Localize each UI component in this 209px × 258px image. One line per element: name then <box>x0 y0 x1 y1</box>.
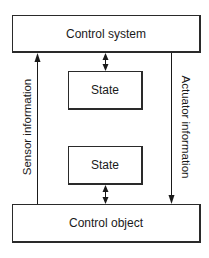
actuator-information-label: Actuator information <box>180 67 192 187</box>
double-arrow-top-icon <box>103 53 109 71</box>
sensor-arrow-icon <box>35 53 41 204</box>
double-arrow-bottom-icon <box>103 185 109 204</box>
actuator-arrow-icon <box>169 53 175 204</box>
sensor-information-label: Sensor information <box>21 72 33 182</box>
